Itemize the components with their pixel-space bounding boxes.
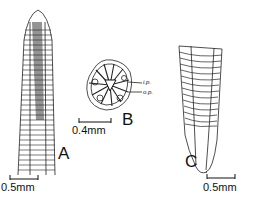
scale-bar-a (10, 175, 38, 180)
panel-a-drawing (18, 10, 55, 175)
panel-label-c: C (185, 153, 197, 170)
panel-label-a: A (58, 145, 69, 162)
scale-text-b: 0.4mm (72, 125, 106, 136)
scale-text-a: 0.5mm (1, 182, 35, 193)
scale-bar-c (207, 174, 235, 179)
annotation-ip: i.p. (143, 79, 151, 85)
scale-bar-b (79, 118, 111, 123)
scale-text-c: 0.5mm (203, 182, 237, 193)
panel-label-b: B (122, 111, 133, 128)
panel-b-drawing (87, 60, 142, 110)
annotation-op: o.p. (143, 89, 153, 95)
figure-drawing (0, 0, 254, 204)
